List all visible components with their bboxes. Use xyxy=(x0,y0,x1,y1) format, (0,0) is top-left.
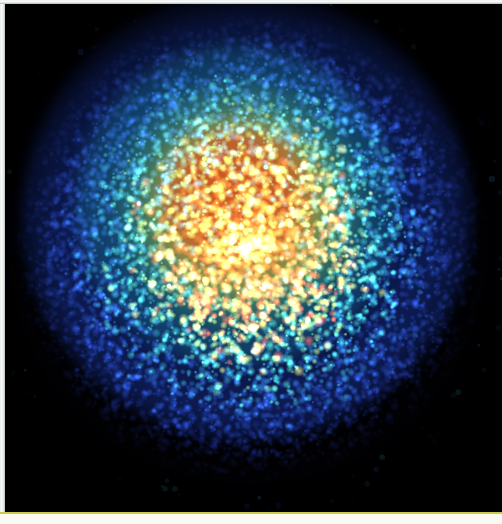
page-top-edge xyxy=(0,0,502,4)
figure-canvas xyxy=(0,0,502,524)
page-bottom-rule xyxy=(0,512,502,514)
page-left-edge xyxy=(0,0,5,524)
speckle-point-cloud xyxy=(5,4,502,512)
false-color-image-plate xyxy=(5,4,502,512)
